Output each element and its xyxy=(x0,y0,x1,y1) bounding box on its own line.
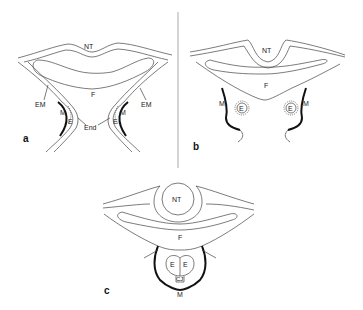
left-myocardium xyxy=(58,102,67,136)
label-f-b: F xyxy=(264,82,268,89)
label-e-left-b: E xyxy=(239,105,244,112)
right-myocardium xyxy=(119,102,128,136)
panel-b: NT F M M E E b xyxy=(190,40,345,152)
label-m-c: M xyxy=(177,291,183,298)
label-e-right: E xyxy=(113,118,118,125)
label-nt-a: NT xyxy=(84,43,94,50)
panel-label-b: b xyxy=(193,141,199,152)
label-m-right-b: M xyxy=(303,100,309,107)
label-end: End xyxy=(84,124,97,131)
em-right-leader xyxy=(140,88,146,100)
label-m-left-b: M xyxy=(219,100,225,107)
label-em-right: EM xyxy=(141,101,152,108)
panel-label-c: c xyxy=(104,285,110,296)
label-e-right-b: E xyxy=(288,105,293,112)
label-m-left: M xyxy=(60,109,66,116)
label-f-a: F xyxy=(91,91,95,98)
right-wall-tail-b xyxy=(285,130,290,142)
ectoderm-right-c xyxy=(206,204,254,210)
label-nt-b: NT xyxy=(262,47,272,54)
label-e-left-c: E xyxy=(170,261,175,268)
label-nt-c: NT xyxy=(172,196,182,203)
panel-c: NT F E E CJ M c xyxy=(103,183,254,298)
neural-tube-outer-c xyxy=(103,186,254,222)
left-wall-tail-b xyxy=(238,130,243,142)
label-em-left: EM xyxy=(35,101,46,108)
label-cj-c: CJ xyxy=(176,276,183,282)
panel-a: NT F EM EM M M E E End a xyxy=(18,43,172,152)
panel-label-a: a xyxy=(23,133,29,144)
embryo-cross-section-diagram: NT F EM EM M M E E End a NT F M M E E b xyxy=(0,0,363,310)
label-m-right: M xyxy=(120,109,126,116)
label-f-c: F xyxy=(178,234,182,241)
em-left-leader xyxy=(44,85,48,100)
foregut-bottom-c xyxy=(104,214,254,250)
neural-tube-upper-line xyxy=(18,43,172,58)
label-e-right-c: E xyxy=(183,261,188,268)
ectoderm-left-c xyxy=(103,204,150,208)
label-e-left: E xyxy=(68,118,73,125)
